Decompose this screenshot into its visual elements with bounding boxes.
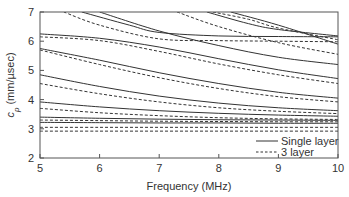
x-axis-label: Frequency (MHz) <box>147 180 232 192</box>
three-layer-curve <box>64 12 338 42</box>
x-tick-label: 5 <box>37 162 43 174</box>
x-tick-label: 10 <box>332 162 344 174</box>
single-layer-curve <box>231 12 338 44</box>
x-tick-label: 6 <box>97 162 103 174</box>
legend-label-3-layer: 3 layer <box>281 146 314 158</box>
dispersion-chart: 5678910 234567 Frequency (MHz) cp (mm/µs… <box>0 0 349 197</box>
single-layer-curve <box>40 49 338 99</box>
single-layer-curve <box>40 117 338 120</box>
y-tick-label: 3 <box>28 123 34 135</box>
y-tick-label: 4 <box>28 94 34 106</box>
single-layer-curve <box>40 122 338 123</box>
three-layer-curve <box>213 12 338 40</box>
chart-container: 5678910 234567 Frequency (MHz) cp (mm/µs… <box>0 0 349 197</box>
single-layer-curve <box>100 12 338 65</box>
legend: Single layer 3 layer <box>256 135 339 158</box>
single-layer-curve <box>207 12 338 36</box>
single-layer-curve <box>82 12 338 37</box>
y-axis-ticks: 234567 <box>28 6 44 164</box>
y-tick-label: 5 <box>28 64 34 76</box>
x-tick-label: 8 <box>216 162 222 174</box>
y-axis-label-units: (mm/µsec) <box>4 52 16 107</box>
plot-curves <box>40 12 338 131</box>
x-tick-label: 7 <box>156 162 162 174</box>
y-tick-label: 7 <box>28 6 34 18</box>
three-layer-curve <box>40 37 338 84</box>
y-tick-label: 6 <box>28 35 34 47</box>
single-layer-curve <box>40 34 338 79</box>
x-tick-label: 9 <box>275 162 281 174</box>
y-tick-label: 2 <box>28 152 34 164</box>
y-axis-label: cp (mm/µsec) <box>4 52 21 117</box>
